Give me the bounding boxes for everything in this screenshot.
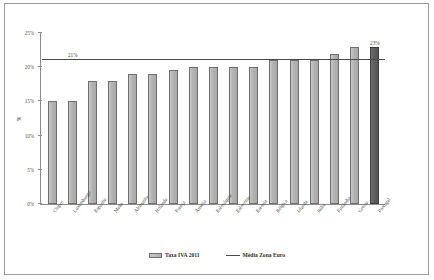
bar-b-lgica[interactable] xyxy=(269,60,278,204)
category-slot: Portugal xyxy=(366,206,386,248)
category-slot: Estónia xyxy=(244,206,264,248)
legend-item-bar: Taxa IVA 2011 xyxy=(149,252,200,258)
legend-label-line: Média Zona Euro xyxy=(243,252,285,258)
category-slot: Alemanha xyxy=(122,206,142,248)
bar-fran-a[interactable] xyxy=(169,70,178,204)
legend-line-swatch-icon xyxy=(226,255,240,256)
bar-luxemburgo[interactable] xyxy=(68,101,77,204)
category-slot: Grécia xyxy=(345,206,365,248)
y-axis-tick-label: 20% xyxy=(25,64,34,70)
category-slot: Malta xyxy=(102,206,122,248)
y-axis-tick-label: 0% xyxy=(27,201,34,207)
category-slot: Irlanda xyxy=(285,206,305,248)
bar-eslov-quia[interactable] xyxy=(209,67,218,204)
y-axis-title: % xyxy=(16,117,22,122)
average-reference-line: 21% xyxy=(42,59,385,60)
bar-chipre[interactable] xyxy=(48,101,57,204)
bar-portugal[interactable]: 23% xyxy=(370,47,379,204)
y-axis-tick-label: 10% xyxy=(25,133,34,139)
average-line-label: 21% xyxy=(68,52,78,58)
category-slot: Espanha xyxy=(82,206,102,248)
chart-page: % 0%5%10%15%20%25% 23% 21% ChipreLuxembu… xyxy=(0,0,434,280)
category-slot: Bélgica xyxy=(264,206,284,248)
y-axis-tick-label: 5% xyxy=(27,167,34,173)
bar-irlanda[interactable] xyxy=(290,60,299,204)
x-axis-category-labels: ChipreLuxemburgoEspanhaMaltaAlemanhaHola… xyxy=(41,206,386,248)
plot-wrapper: 0%5%10%15%20%25% 23% 21% xyxy=(40,33,385,205)
bar-malta[interactable] xyxy=(108,81,117,204)
bar-it-lia[interactable] xyxy=(310,60,319,204)
category-slot: Chipre xyxy=(41,206,61,248)
y-axis-tick-label: 25% xyxy=(25,30,34,36)
category-slot: Finlândia xyxy=(325,206,345,248)
category-slot: França xyxy=(163,206,183,248)
category-slot: Áustria xyxy=(183,206,203,248)
plot-area: 0%5%10%15%20%25% 23% 21% xyxy=(40,33,385,205)
category-slot: Eslovénia xyxy=(224,206,244,248)
bar-finl-ndia[interactable] xyxy=(330,54,339,204)
legend-item-line: Média Zona Euro xyxy=(226,252,285,258)
bar-holanda[interactable] xyxy=(148,74,157,204)
y-axis-tick-label: 15% xyxy=(25,98,34,104)
category-slot: Luxemburgo xyxy=(61,206,81,248)
bar-est-nia[interactable] xyxy=(249,67,258,204)
bar-value-label: 23% xyxy=(370,40,380,46)
legend-label-bar: Taxa IVA 2011 xyxy=(165,252,200,258)
category-slot: Itália xyxy=(305,206,325,248)
legend-bar-swatch-icon xyxy=(149,253,162,258)
category-slot: Eslováquia xyxy=(203,206,223,248)
chart-legend: Taxa IVA 2011 Média Zona Euro xyxy=(0,252,434,258)
bar-eslov-nia[interactable] xyxy=(229,67,238,204)
bar-gr-cia[interactable] xyxy=(350,47,359,204)
bar--ustria[interactable] xyxy=(189,67,198,204)
category-slot: Holanda xyxy=(142,206,162,248)
bar-espanha[interactable] xyxy=(88,81,97,204)
bar-alemanha[interactable] xyxy=(128,74,137,204)
